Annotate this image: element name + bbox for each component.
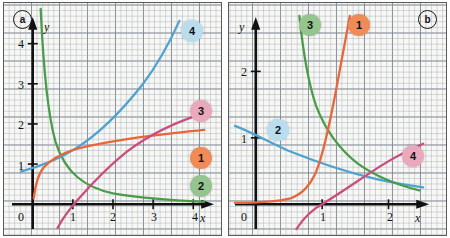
- badge-a-1[interactable]: 1: [190, 147, 212, 169]
- curve-b-3-green: [299, 16, 419, 190]
- curve-a-4-blue: [21, 21, 180, 172]
- badge-a-2[interactable]: 2: [190, 175, 212, 197]
- badge-b-1[interactable]: 1: [348, 14, 370, 36]
- x-tick-a-3: 3: [151, 211, 157, 223]
- x-tick-b-0: 0: [241, 211, 247, 223]
- x-tick-a-1: 1: [70, 211, 76, 223]
- panel-b: b: [228, 2, 447, 236]
- x-tick-a-4: 4: [192, 211, 198, 223]
- curve-b-1-orange: [235, 16, 350, 203]
- y-tick-a-4: 4: [18, 38, 24, 50]
- y-tick-a-2: 2: [18, 119, 24, 131]
- curves-svg-b: [229, 3, 446, 235]
- y-tick-a-3: 3: [18, 79, 24, 91]
- x-tick-b-1: 1: [320, 211, 326, 223]
- badge-b-4[interactable]: 4: [402, 145, 424, 167]
- y-tick-b-1: 1: [241, 133, 247, 145]
- badge-a-4[interactable]: 4: [181, 20, 203, 42]
- curve-a-2-green: [41, 9, 204, 202]
- badge-b-2[interactable]: 2: [267, 119, 289, 141]
- plot-area-b: y x 0 1 2 1 2 3 1 2 4: [229, 3, 446, 235]
- badge-a-3[interactable]: 3: [190, 100, 212, 122]
- y-tick-a-1: 1: [18, 160, 24, 172]
- axis-y-label-a: y: [44, 21, 49, 33]
- x-tick-b-2: 2: [387, 211, 393, 223]
- x-tick-a-0: 0: [18, 211, 24, 223]
- figure-root: a: [0, 0, 450, 238]
- axis-y-label-b: y: [239, 21, 244, 33]
- curve-a-3-pink: [58, 113, 205, 228]
- y-tick-b-2: 2: [241, 66, 247, 78]
- axis-x-label-b: x: [415, 212, 420, 224]
- panel-a: a: [3, 2, 222, 236]
- curve-a-1-orange: [34, 130, 204, 198]
- x-tick-a-2: 2: [110, 211, 116, 223]
- plot-area-a: y x 0 1 2 3 4 1 2 3 4 4 3 1 2: [4, 3, 221, 235]
- badge-b-3[interactable]: 3: [299, 14, 321, 36]
- axis-x-label-a: x: [200, 212, 205, 224]
